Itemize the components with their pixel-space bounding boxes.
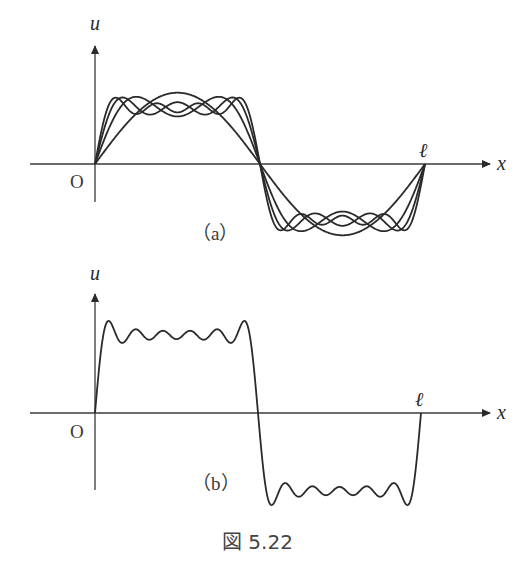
- x-axis-label-a: x: [496, 152, 506, 174]
- figure-caption: 図 5.22: [222, 530, 293, 554]
- origin-label-a: O: [70, 171, 84, 192]
- panel-a: u x O ℓ （a）: [30, 12, 506, 244]
- panel-label-a: （a）: [192, 223, 238, 244]
- end-label-b: ℓ: [415, 388, 424, 410]
- y-axis-label-a: u: [90, 12, 100, 34]
- figure-canvas: u x O ℓ （a） u x O ℓ （b） 図 5.22: [0, 0, 530, 563]
- origin-label-b: O: [70, 421, 84, 442]
- end-label-a: ℓ: [419, 139, 428, 161]
- y-axis-label-b: u: [90, 262, 100, 284]
- panel-label-b: （b）: [192, 473, 240, 494]
- panel-b: u x O ℓ （b）: [30, 262, 506, 505]
- x-axis-label-b: x: [496, 401, 506, 423]
